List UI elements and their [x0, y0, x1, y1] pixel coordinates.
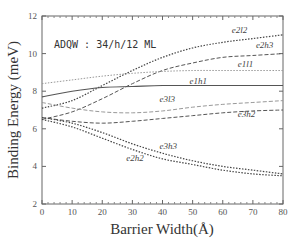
- x-tick-label: 50: [188, 207, 198, 217]
- curve-label-e3l3: e3l3: [159, 94, 175, 104]
- curve-label-e1l1: e1l1: [238, 59, 254, 69]
- curve-label-e2l2: e2l2: [232, 25, 248, 35]
- x-tick-label: 0: [40, 207, 45, 217]
- x-tick-label: 40: [158, 207, 168, 217]
- x-tick-label: 60: [218, 207, 228, 217]
- y-tick-label: 12: [28, 11, 37, 21]
- x-tick-label: 30: [128, 207, 138, 217]
- curve-label-e1h1: e1h1: [190, 76, 208, 86]
- x-tick-label: 20: [98, 207, 108, 217]
- curve-e1l1: [42, 70, 283, 83]
- x-axis-label: Barrier Width(Å): [110, 221, 214, 238]
- x-tick-label: 10: [68, 207, 78, 217]
- y-tick-label: 4: [33, 161, 38, 171]
- curve-label-e3h2: e3h2: [238, 109, 256, 119]
- curve-label-e3h3: e3h3: [159, 141, 177, 151]
- y-axis-label: Binding Energy (meV): [5, 41, 22, 179]
- y-tick-label: 8: [33, 86, 38, 96]
- binding-energy-chart: 01020304050607080 24681012 e2l2e2h3e1l1e…: [0, 0, 289, 241]
- sample-annotation: ADQW : 34/h/12 ML: [54, 39, 156, 50]
- curve-label-e2h2: e2h2: [126, 153, 144, 163]
- y-tick-label: 6: [33, 124, 38, 134]
- y-tick-label: 10: [28, 49, 38, 59]
- curves: [42, 35, 283, 176]
- x-tick-label: 70: [248, 207, 258, 217]
- y-tick-label: 2: [33, 199, 38, 209]
- curve-label-e2h3: e2h3: [256, 40, 274, 50]
- x-tick-label: 80: [279, 207, 289, 217]
